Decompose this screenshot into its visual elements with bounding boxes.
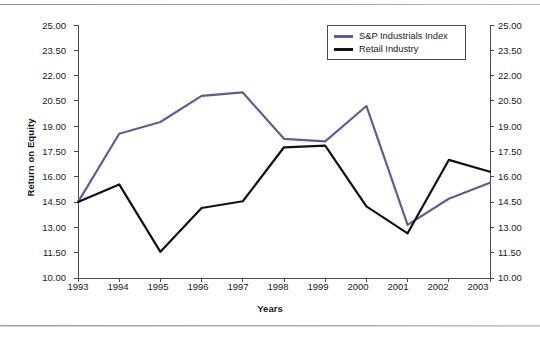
return-on-equity-line-chart: Return on Equity Years 25.00 23.50 22.00… (0, 0, 540, 340)
y-axis-left-tick-label: 25.00 (42, 21, 66, 31)
x-axis-tick-label: 1993 (58, 282, 98, 292)
x-axis-title: Years (0, 303, 540, 314)
x-axis-tick-label: 2003 (458, 282, 498, 292)
y-axis-left-tick-label: 16.00 (42, 172, 66, 182)
x-axis-tick-label: 2000 (338, 282, 378, 292)
y-axis-left-tick-label: 20.50 (42, 96, 66, 106)
y-axis-right-tick-label: 10.00 (498, 273, 522, 283)
y-axis-left-tick-label: 19.00 (42, 122, 66, 132)
x-axis-tick-label: 1997 (218, 282, 258, 292)
series-lines (78, 92, 490, 251)
y-axis-left-tick-label: 22.00 (42, 71, 66, 81)
x-axis-tick-label: 2002 (418, 282, 458, 292)
y-axis-left-tick-label: 23.50 (42, 46, 66, 56)
y-axis-right-tick-label: 16.00 (498, 172, 522, 182)
legend-item-retail-industry[interactable]: Retail Industry (334, 43, 460, 56)
y-axis-right-tick-label: 25.00 (498, 21, 522, 31)
y-axis-title: Return on Equity (25, 98, 36, 218)
y-axis-left-tick-label: 14.50 (42, 197, 66, 207)
y-axis-right-tick-label: 22.00 (498, 71, 522, 81)
legend-swatch-retail-industry (334, 48, 353, 51)
y-axis-left-tick-label: 17.50 (42, 147, 66, 157)
y-axis-right-tick-label: 11.50 (498, 248, 521, 258)
y-axis-left-tick-label: 11.50 (43, 248, 66, 258)
legend-item-sp-industrials-index[interactable]: S&P Industrials Index (334, 30, 460, 43)
y-axis-right-tick-label: 20.50 (498, 96, 522, 106)
y-axis-left-tick-label: 13.00 (42, 223, 66, 233)
y-axis-right-tick-label: 14.50 (498, 197, 522, 207)
y-axis-right-tick-label: 17.50 (498, 147, 522, 157)
x-axis-tick-label: 1996 (178, 282, 218, 292)
x-axis-tick-label: 1994 (98, 282, 138, 292)
series-line-retail-industry (78, 146, 490, 252)
x-axis-tick-label: 2001 (378, 282, 418, 292)
series-line-s-p-industrials-index (78, 92, 490, 224)
y-axis-right-tick-label: 13.00 (498, 223, 522, 233)
y-axis-right-tick-label: 23.50 (498, 46, 522, 56)
chart-legend[interactable]: S&P Industrials Index Retail Industry (327, 25, 466, 60)
x-axis-tick-label: 1998 (258, 282, 298, 292)
legend-swatch-sp-industrials-index (334, 35, 353, 38)
x-axis-tick-label: 1995 (138, 282, 178, 292)
y-axis-right-tick-label: 19.00 (498, 122, 522, 132)
axis-lines (74, 25, 494, 282)
legend-label-sp-industrials-index: S&P Industrials Index (359, 32, 448, 41)
legend-label-retail-industry: Retail Industry (359, 45, 418, 54)
x-axis-tick-label: 1999 (298, 282, 338, 292)
